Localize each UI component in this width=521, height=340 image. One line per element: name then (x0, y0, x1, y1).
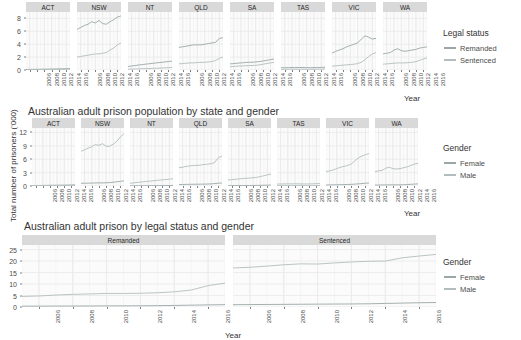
x-tick-mark (95, 70, 96, 72)
x-tick-mark (316, 186, 317, 188)
x-tick-mark (197, 70, 198, 72)
legend-item-label: Male (460, 171, 476, 180)
panel-plot-area (22, 245, 225, 307)
legend-item-male[interactable]: Male (443, 283, 485, 295)
y-tick-label: 3 (23, 169, 27, 176)
y-tick-mark (20, 272, 22, 273)
chart-1-legend-title: Legal status (443, 28, 497, 38)
facet-panel (230, 12, 274, 70)
x-tick-label: 2016 (440, 73, 446, 86)
x-tick-label: 2010 (123, 310, 129, 323)
legend-item-female[interactable]: Female (443, 271, 485, 283)
x-tick-mark (385, 307, 386, 309)
facet-x-axis: 200620082010201220142016 (81, 186, 124, 214)
legend-item-label: Sentenced (460, 56, 496, 65)
chart-2-legend-title: Gender (443, 143, 485, 153)
x-tick-label: 2006 (353, 73, 359, 86)
y-tick-mark (20, 295, 22, 296)
x-tick-label: 2006 (52, 189, 58, 202)
x-tick-label: 2008 (354, 189, 360, 202)
chart-3-legend: Gender FemaleMale (443, 257, 485, 295)
x-tick-mark (134, 186, 135, 188)
y-tick-mark (24, 18, 26, 19)
facet-nt: NT200620082010201220142016 (128, 2, 172, 98)
x-tick-label: 2012 (157, 310, 163, 323)
x-tick-mark (387, 70, 388, 72)
x-tick-mark (174, 307, 175, 309)
panel-plot-area (383, 12, 427, 70)
legend-item-sentenced[interactable]: Sentenced (443, 54, 497, 66)
panel-plot-area (375, 128, 418, 186)
y-tick-label: 6 (23, 156, 27, 163)
facet-strip-label: Sentenced (233, 235, 436, 245)
x-tick-mark (44, 70, 45, 72)
facet-act: ACT200620082010201220142016 (26, 2, 70, 98)
facet-panel (26, 12, 70, 70)
x-tick-mark (284, 307, 285, 309)
chart-1-legal-status: ACT200620082010201220142016NSW2006200820… (0, 0, 521, 105)
y-tick-mark (30, 186, 32, 187)
chart-2-title: Australian adult prison population by st… (28, 105, 279, 117)
legend-line-key-icon (443, 159, 457, 168)
x-tick-label: 2006 (150, 189, 156, 202)
legend-item-remanded[interactable]: Remanded (443, 42, 497, 54)
y-tick-mark (24, 44, 26, 45)
x-tick-label: 2006 (346, 189, 352, 202)
y-tick-mark (24, 70, 26, 71)
x-tick-mark (140, 307, 141, 309)
x-tick-label: 2006 (302, 73, 308, 86)
x-tick-mark (285, 70, 286, 72)
x-tick-mark (162, 186, 163, 188)
y-tick-mark (24, 31, 26, 32)
x-tick-mark (292, 70, 293, 72)
y-tick-mark (30, 145, 32, 146)
chart-1-legend-items: RemandedSentenced (443, 42, 497, 66)
x-tick-label: 2010 (112, 73, 118, 86)
legend-item-female[interactable]: Female (443, 157, 485, 169)
facet-strip-label: SA (230, 2, 274, 12)
x-tick-label: 2012 (74, 189, 80, 202)
x-tick-label: 2006 (149, 73, 155, 86)
x-tick-label: 2008 (360, 73, 366, 86)
facet-nt: NT200620082010201220142016 (130, 118, 173, 214)
y-tick-label: 6 (17, 28, 21, 35)
x-tick-label: 2010 (367, 73, 373, 86)
x-tick-label: 2012 (375, 73, 381, 86)
facet-panel (179, 12, 223, 70)
chart-2-legend: Gender FemaleMale (443, 143, 485, 181)
x-tick-mark (212, 70, 213, 72)
x-tick-mark (183, 186, 184, 188)
x-tick-mark (211, 186, 212, 188)
x-tick-label: 2012 (368, 189, 374, 202)
facet-panel (375, 128, 418, 186)
facet-sentenced: Sentenced200620082010201220142016 (233, 235, 436, 335)
x-tick-mark (154, 70, 155, 72)
panel-plot-area (179, 128, 222, 186)
legend-line-key-icon (443, 171, 457, 180)
facet-panel (22, 245, 225, 307)
y-tick-label: 0 (13, 304, 17, 311)
panel-plot-area (32, 128, 75, 186)
x-tick-mark (260, 186, 261, 188)
x-tick-label: 2008 (158, 189, 164, 202)
facet-panel (130, 128, 173, 186)
legend-item-male[interactable]: Male (443, 169, 485, 181)
x-tick-label: 2016 (436, 310, 442, 323)
facet-x-axis: 200620082010201220142016 (277, 186, 320, 214)
x-tick-label: 2006 (56, 310, 62, 323)
facet-qld: QLD200620082010201220142016 (179, 2, 223, 98)
x-tick-mark (73, 307, 74, 309)
x-tick-mark (103, 70, 104, 72)
facet-strip-label: VIC (326, 118, 369, 128)
facet-strip-label: NT (128, 2, 172, 12)
x-tick-mark (288, 186, 289, 188)
y-tick-mark (30, 159, 32, 160)
x-tick-label: 2010 (163, 73, 169, 86)
panel-plot-area (332, 12, 376, 70)
x-tick-mark (337, 186, 338, 188)
x-tick-mark (253, 186, 254, 188)
x-tick-label: 2010 (61, 73, 67, 86)
panel-plot-area (326, 128, 369, 186)
facet-wa: WA200620082010201220142016 (375, 118, 418, 214)
chart-3-facet-row: Remanded200620082010201220142016Sentence… (22, 235, 436, 335)
